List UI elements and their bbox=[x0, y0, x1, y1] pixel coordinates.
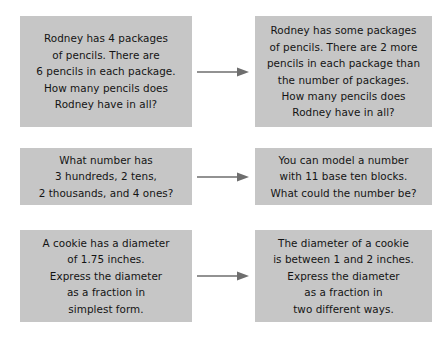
transformation-row: A cookie has a diameter of 1.75 inches. … bbox=[0, 230, 446, 322]
revised-problem-box: You can model a number with 11 base ten … bbox=[255, 148, 432, 205]
revised-problem-box: The diameter of a cookie is between 1 an… bbox=[255, 230, 432, 322]
problem-transformation-diagram: Rodney has 4 packages of pencils. There … bbox=[0, 0, 446, 343]
original-problem-box: What number has 3 hundreds, 2 tens, 2 th… bbox=[20, 148, 192, 205]
original-problem-box: Rodney has 4 packages of pencils. There … bbox=[20, 16, 192, 127]
transformation-row: Rodney has 4 packages of pencils. There … bbox=[0, 16, 446, 127]
original-problem-box: A cookie has a diameter of 1.75 inches. … bbox=[20, 230, 192, 322]
revised-problem-box: Rodney has some packages of pencils. The… bbox=[255, 16, 432, 127]
transformation-row: What number has 3 hundreds, 2 tens, 2 th… bbox=[0, 148, 446, 205]
right-arrow-icon bbox=[197, 66, 249, 78]
right-arrow-icon bbox=[197, 171, 249, 183]
right-arrow-icon bbox=[197, 270, 249, 282]
